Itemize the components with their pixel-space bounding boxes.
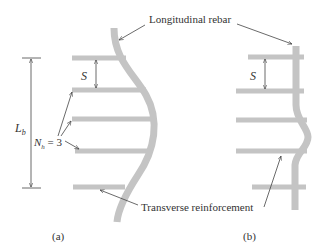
panel-b-label: (b) — [243, 230, 256, 243]
spacing-label-b: S — [250, 69, 256, 83]
longitudinal-rebar-label: Longitudinal rebar — [149, 13, 232, 25]
longitudinal-arrow-a — [119, 25, 145, 40]
panel-a-label: (a) — [52, 230, 65, 243]
spacing-label-a: S — [81, 69, 87, 83]
transverse-arrow-b — [264, 156, 281, 207]
longitudinal-arrow-b — [237, 24, 292, 44]
longitudinal-bar-a — [114, 28, 154, 222]
nh-label: Nh = 3 — [33, 136, 63, 151]
panel-a: S Lb Nh = 3 (a) — [14, 25, 156, 243]
buckling-length-label: Lb — [14, 121, 26, 137]
rebar-buckling-diagram: S Lb Nh = 3 (a) Longitudinal rebar Trans… — [0, 0, 324, 252]
transverse-reinforcement-label: Transverse reinforcement — [141, 201, 253, 213]
